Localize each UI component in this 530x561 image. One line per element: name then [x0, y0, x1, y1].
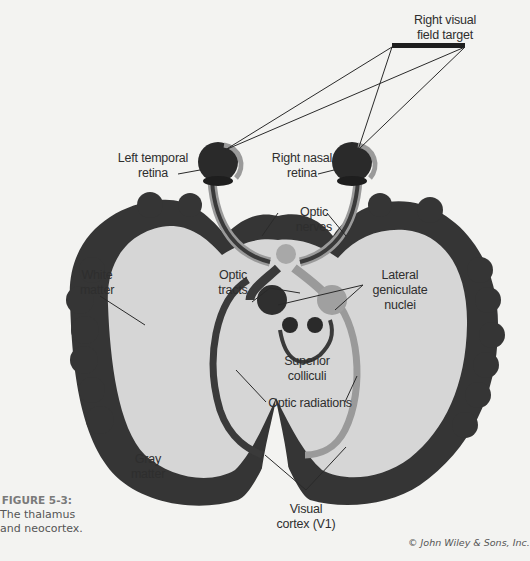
label-line: nuclei: [360, 298, 440, 313]
label-line: tracts: [208, 283, 258, 298]
label-line: colliculi: [272, 369, 342, 384]
label-line: White: [72, 268, 122, 283]
light-rays: [225, 47, 465, 150]
visual-field-target-bar: [392, 43, 465, 48]
caption-line: and neocortex.: [0, 522, 72, 536]
label-line: matter: [123, 467, 173, 482]
label-line: nerves: [284, 220, 344, 235]
copyright-credit: © John Wiley & Sons, Inc.: [408, 537, 530, 548]
label-optic-tracts: Optic tracts: [208, 268, 258, 298]
label-line: Right visual: [400, 13, 490, 28]
label-line: Optic radiations: [255, 396, 365, 411]
label-line: matter: [72, 283, 122, 298]
label-gray-matter: Gray matter: [123, 452, 173, 482]
label-line: Optic: [284, 205, 344, 220]
figure-caption: The thalamus and neocortex.: [0, 508, 72, 536]
label-visual-cortex: Visual cortex (V1): [266, 502, 346, 532]
label-line: field target: [400, 28, 490, 43]
lgn-left: [257, 285, 287, 315]
label-superior-colliculi: Superior colliculi: [272, 354, 342, 384]
label-left-temporal-retina: Left temporal retina: [108, 151, 198, 181]
label-line: Left temporal: [108, 151, 198, 166]
label-optic-nerves: Optic nerves: [284, 205, 344, 235]
label-right-nasal-retina: Right nasal retina: [262, 151, 342, 181]
superior-colliculus-left: [282, 317, 298, 333]
label-line: retina: [108, 166, 198, 181]
label-line: cortex (V1): [266, 517, 346, 532]
label-line: Gray: [123, 452, 173, 467]
left-eye: [198, 142, 241, 186]
optic-chiasm: [276, 244, 296, 264]
label-line: Optic: [208, 268, 258, 283]
label-line: Superior: [272, 354, 342, 369]
label-line: geniculate: [360, 283, 440, 298]
label-optic-radiations: Optic radiations: [255, 396, 365, 411]
label-right-visual-field-target: Right visual field target: [400, 13, 490, 43]
label-line: Right nasal: [262, 151, 342, 166]
label-line: Visual: [266, 502, 346, 517]
figure-number: FIGURE 5-3:: [0, 494, 72, 506]
superior-colliculus-right: [307, 317, 323, 333]
label-line: retina: [262, 166, 342, 181]
label-white-matter: White matter: [72, 268, 122, 298]
caption-line: The thalamus: [0, 508, 72, 522]
label-lateral-geniculate-nuclei: Lateral geniculate nuclei: [360, 268, 440, 313]
label-line: Lateral: [360, 268, 440, 283]
